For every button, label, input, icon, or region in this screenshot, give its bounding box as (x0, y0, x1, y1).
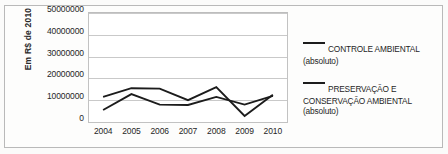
legend-qualifier-text: (absoluto) (303, 106, 443, 117)
y-axis-tick-labels: 0100000002000000030000000400000005000000… (26, 8, 84, 128)
series-line-0 (103, 94, 273, 110)
series-line-1 (103, 87, 273, 116)
legend-label-text-line2: CONSERVAÇÃO AMBIENTAL (303, 96, 443, 107)
legend-swatch-line-icon (303, 82, 325, 84)
legend-item-controle-ambiental: CONTROLE AMBIENTAL (absoluto) (303, 38, 443, 67)
x-axis-tick-label: 2005 (122, 126, 141, 136)
legend-swatch-line-icon (303, 42, 325, 44)
legend-label-controle-ambiental: CONTROLE AMBIENTAL (absoluto) (303, 44, 443, 67)
y-axis-tick-label: 50000000 (47, 4, 84, 14)
y-axis-tick-label: 40000000 (47, 26, 84, 36)
y-axis-tick-label: 0 (79, 113, 84, 123)
y-axis-tick-label: 20000000 (47, 69, 84, 79)
x-axis-tick-labels: 2004200520062007200820092010 (88, 126, 288, 140)
x-axis-tick-label: 2009 (235, 126, 254, 136)
legend-label-text: PRESERVAÇÃO E (328, 84, 396, 94)
y-axis-tick-label: 30000000 (47, 48, 84, 58)
chart-legend: CONTROLE AMBIENTAL (absoluto) PRESERVAÇÃ… (303, 38, 443, 128)
plot-svg (89, 13, 287, 122)
x-axis-tick-label: 2004 (94, 126, 113, 136)
chart-screenshot: Em R$ de 2010 01000000020000000300000004… (0, 0, 448, 154)
legend-label-preservacao-conservacao-ambiental: PRESERVAÇÃO E CONSERVAÇÃO AMBIENTAL (abs… (303, 84, 443, 117)
x-axis-tick-label: 2008 (207, 126, 226, 136)
x-axis-tick-label: 2006 (150, 126, 169, 136)
legend-qualifier-text: (absoluto) (303, 56, 443, 67)
plot-area (88, 12, 288, 123)
y-axis-tick-label: 10000000 (47, 91, 84, 101)
data-series-group (103, 87, 273, 116)
legend-item-preservacao-conservacao-ambiental: PRESERVAÇÃO E CONSERVAÇÃO AMBIENTAL (abs… (303, 78, 443, 117)
x-axis-tick-label: 2007 (179, 126, 198, 136)
x-axis-tick-label: 2010 (264, 126, 283, 136)
legend-label-text: CONTROLE AMBIENTAL (328, 44, 420, 54)
